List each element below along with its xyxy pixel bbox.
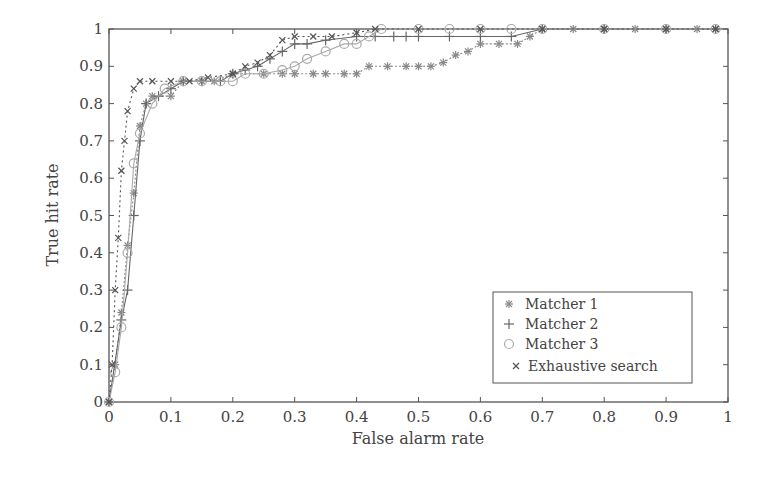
- y-axis-label: True hit rate: [43, 163, 62, 266]
- x-tick-label: 0.1: [159, 408, 183, 426]
- x-tick-label: 0.8: [592, 408, 616, 426]
- asterisk-marker-icon: [505, 300, 513, 308]
- y-tick-label: 0.4: [79, 244, 103, 262]
- y-tick-label: 0.5: [79, 207, 103, 225]
- legend-item-exhaustive-search: Exhaustive search: [513, 358, 658, 374]
- legend-label: Matcher 3: [525, 336, 599, 352]
- y-tick-label: 0.2: [79, 318, 103, 336]
- x-tick-label: 0.5: [407, 408, 431, 426]
- x-axis-label: False alarm rate: [352, 429, 485, 448]
- y-tick-label: 0: [93, 393, 103, 411]
- x-tick-label: 0.7: [530, 408, 554, 426]
- legend: Matcher 1 Matcher 2 Matcher 3 Exhaustive…: [493, 292, 692, 383]
- x-tick-label: 0.2: [221, 408, 245, 426]
- y-tick-label: 0.9: [79, 57, 103, 75]
- x-tick-label: 1: [723, 408, 733, 426]
- y-tick-label: 0.3: [79, 281, 103, 299]
- y-tick-label: 0.8: [79, 95, 103, 113]
- legend-label: Matcher 1: [525, 296, 599, 312]
- y-tick-label: 0.1: [79, 356, 103, 374]
- legend-label: Matcher 2: [525, 316, 599, 332]
- x-tick-label: 0.9: [654, 408, 678, 426]
- y-tick-label: 1: [93, 20, 103, 38]
- x-tick-label: 0.6: [468, 408, 492, 426]
- legend-label: Exhaustive search: [528, 358, 658, 374]
- y-tick-label: 0.6: [79, 169, 103, 187]
- x-tick-label: 0.4: [345, 408, 369, 426]
- x-tick-label: 0: [104, 408, 114, 426]
- y-tick-label: 0.7: [79, 132, 103, 150]
- roc-chart: 00.10.20.30.40.50.60.70.80.9100.10.20.30…: [0, 0, 766, 480]
- x-tick-label: 0.3: [283, 408, 307, 426]
